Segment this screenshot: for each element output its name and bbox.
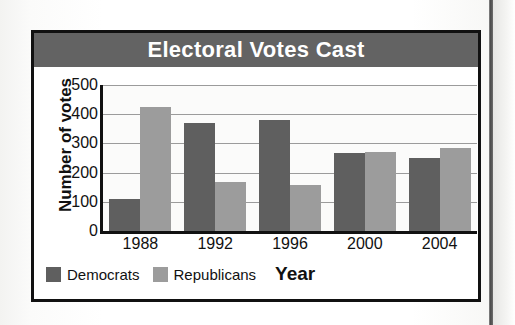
bar-group xyxy=(109,85,171,231)
plot-area: 0100200300400500 xyxy=(100,85,477,234)
bar-republicans-2000[interactable] xyxy=(365,152,396,231)
gridline: 0 xyxy=(103,231,477,232)
x-axis-tick-label-2004: 2004 xyxy=(409,235,471,253)
y-axis-tick-label: 0 xyxy=(89,222,98,240)
bar-democrats-1996[interactable] xyxy=(259,120,290,231)
y-axis-tick-label: 300 xyxy=(71,134,98,152)
x-axis-tick-label-1996: 1996 xyxy=(259,235,321,253)
bar-democrats-1992[interactable] xyxy=(184,123,215,231)
legend-swatch-democrats xyxy=(46,267,61,282)
y-axis-tick-label: 200 xyxy=(71,164,98,182)
legend-swatch-republicans xyxy=(153,267,168,282)
y-axis-tick-label: 100 xyxy=(71,193,98,211)
chart-body: Number of votes 0100200300400500 1988199… xyxy=(34,67,478,299)
x-axis-tick-labels: 19881992199620002004 xyxy=(103,235,477,253)
bar-republicans-2004[interactable] xyxy=(440,148,471,232)
bar-republicans-1996[interactable] xyxy=(290,185,321,231)
bar-republicans-1992[interactable] xyxy=(215,182,246,231)
x-axis-tick-label-1988: 1988 xyxy=(109,235,171,253)
x-axis-tick-label-1992: 1992 xyxy=(184,235,246,253)
bar-series-container xyxy=(103,85,477,231)
chart-card: Electoral Votes Cast Number of votes 010… xyxy=(31,30,481,302)
bar-group xyxy=(409,85,471,231)
chart-title-bar: Electoral Votes Cast xyxy=(34,33,478,67)
legend-label-republicans: Republicans xyxy=(174,266,257,283)
bar-group xyxy=(334,85,396,231)
x-axis-tick-label-2000: 2000 xyxy=(334,235,396,253)
y-axis-tick-label: 500 xyxy=(71,76,98,94)
bar-republicans-1988[interactable] xyxy=(140,107,171,231)
legend-label-democrats: Democrats xyxy=(67,266,140,283)
x-axis-title: Year xyxy=(275,263,315,285)
y-axis-tick-label: 400 xyxy=(71,105,98,123)
bar-group xyxy=(259,85,321,231)
page-gutter-shading xyxy=(493,0,515,325)
bar-democrats-2004[interactable] xyxy=(409,158,440,231)
chart-title: Electoral Votes Cast xyxy=(147,37,364,63)
bar-group xyxy=(184,85,246,231)
legend-item-democrats: Democrats xyxy=(46,266,140,283)
bar-democrats-1988[interactable] xyxy=(109,199,140,231)
chart-legend: Democrats Republicans Year xyxy=(46,263,315,285)
legend-item-republicans: Republicans xyxy=(153,266,257,283)
bar-democrats-2000[interactable] xyxy=(334,153,365,231)
